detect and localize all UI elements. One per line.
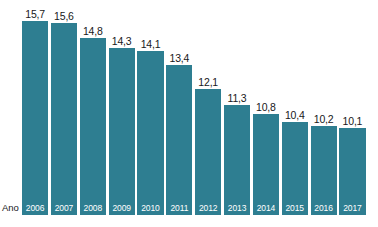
bar-value-label: 10,8 — [256, 101, 276, 113]
plot-area: 200615,7200715,6200814,8200914,3201014,1… — [0, 0, 378, 227]
bar-group: 201710,1 — [339, 108, 365, 215]
bar-group: 200615,7 — [22, 1, 48, 215]
bar-group: 201510,4 — [282, 102, 308, 215]
bar-category-label: 2014 — [257, 203, 276, 213]
bar-category-label: 2013 — [228, 203, 247, 213]
bar-group: 201014,1 — [137, 31, 163, 215]
bar-group: 201610,2 — [311, 106, 337, 215]
bar: 2013 — [224, 105, 250, 215]
bar-chart: 200615,7200715,6200814,8200914,3201014,1… — [0, 0, 378, 227]
bar-value-label: 10,2 — [314, 113, 334, 125]
bar-category-label: 2010 — [141, 203, 160, 213]
bar-value-label: 15,7 — [25, 8, 45, 20]
bar: 2016 — [311, 126, 337, 215]
bar-value-label: 14,3 — [112, 35, 132, 47]
bar: 2009 — [109, 48, 135, 215]
bar-value-label: 10,4 — [285, 109, 305, 121]
bar-value-label: 15,6 — [54, 10, 74, 22]
bar-category-label: 2008 — [84, 203, 103, 213]
bar-value-label: 14,8 — [83, 25, 103, 37]
bar-group: 200715,6 — [51, 3, 77, 215]
bar: 2017 — [339, 128, 365, 215]
bar-category-label: 2012 — [199, 203, 218, 213]
bar-group: 201410,8 — [253, 94, 279, 215]
bar: 2010 — [137, 51, 163, 215]
bar-category-label: 2007 — [55, 203, 74, 213]
bar-category-label: 2016 — [314, 203, 333, 213]
bar-group: 200914,3 — [109, 28, 135, 215]
bar-value-label: 14,1 — [141, 38, 161, 50]
bar-value-label: 11,3 — [228, 92, 247, 104]
bar-group: 201113,4 — [166, 45, 192, 215]
bar-group: 201212,1 — [195, 69, 221, 215]
bar: 2007 — [51, 23, 77, 215]
bar-group: 201311,3 — [224, 85, 250, 215]
bar-category-label: 2015 — [285, 203, 304, 213]
bar-value-label: 12,1 — [198, 76, 218, 88]
bar-category-label: 2006 — [26, 203, 45, 213]
bar: 2012 — [195, 89, 221, 215]
bar-value-label: 10,1 — [343, 115, 363, 127]
bar-value-label: 13,4 — [170, 52, 190, 64]
x-axis-title: Ano — [2, 202, 19, 213]
bar: 2006 — [22, 21, 48, 215]
bar: 2015 — [282, 122, 308, 215]
bar-category-label: 2009 — [112, 203, 131, 213]
bar-group: 200814,8 — [80, 18, 106, 215]
bar: 2014 — [253, 114, 279, 215]
bar-category-label: 2011 — [170, 203, 188, 213]
bar: 2011 — [166, 65, 192, 215]
bar-category-label: 2017 — [343, 203, 362, 213]
bar: 2008 — [80, 38, 106, 215]
